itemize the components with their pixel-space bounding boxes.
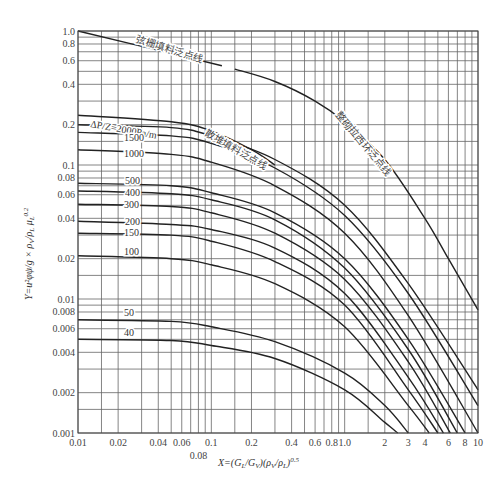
y-tick-label: 0.004 xyxy=(53,347,76,358)
x-tick-label: 0.2 xyxy=(245,437,258,448)
y-tick-label: 0.008 xyxy=(53,306,76,317)
svg-text:Y=u²φψ/g × ρV/ρL μL0.2: Y=u²φψ/g × ρV/ρL μL0.2 xyxy=(22,207,36,300)
x-tick-label: 0.1 xyxy=(205,437,218,448)
x-tick-label: 0.04 xyxy=(150,437,168,448)
y-tick-label: 0.002 xyxy=(53,387,76,398)
curve-label-500: 500 xyxy=(125,175,140,186)
x-tick-label: 10 xyxy=(473,437,483,448)
x-tick-label: 0.02 xyxy=(109,437,127,448)
y-tick-label: 0.8 xyxy=(63,38,76,49)
curve-label-1500: 1500 xyxy=(124,132,144,143)
x-tick-label: 8 xyxy=(463,437,468,448)
x-tick-label: 4 xyxy=(422,437,427,448)
y-tick-label: 0.01 xyxy=(58,294,76,305)
curve-label-100: 100 xyxy=(124,246,139,257)
y-tick-label: 0.02 xyxy=(58,253,76,264)
x-tick-label: 2 xyxy=(382,437,387,448)
y-tick-label: 0.4 xyxy=(63,79,76,90)
curve-label-150: 150 xyxy=(124,227,139,238)
curve-label-200: 200 xyxy=(125,216,140,227)
curve-label-300: 300 xyxy=(124,199,139,210)
y-tick-label: 0.001 xyxy=(53,428,76,439)
y-tick-label: 0.1 xyxy=(63,160,76,171)
y-axis-title: Y=u²φψ/g × ρV/ρL μL0.2 xyxy=(22,207,36,300)
y-tick-label: 1.0 xyxy=(63,26,76,37)
x-tick-label: 3 xyxy=(406,437,411,448)
x-tick-label: 0.06 xyxy=(173,437,191,448)
y-tick-label: 0.06 xyxy=(58,189,76,200)
x-tick-label: 0.8 xyxy=(325,437,338,448)
curve-label-400: 400 xyxy=(125,187,140,198)
y-tick-label: 0.04 xyxy=(58,213,76,224)
x-tick-label: 1.0 xyxy=(338,437,351,448)
curve-label-40: 40 xyxy=(124,327,134,338)
y-tick-label: 0.006 xyxy=(53,323,76,334)
curve-40 xyxy=(78,339,398,433)
x-tick-label: 0.6 xyxy=(309,437,322,448)
y-tick-label: 0.08 xyxy=(58,172,76,183)
x-tick-label: 0.08 xyxy=(190,450,208,461)
curve-label-50: 50 xyxy=(124,307,134,318)
curve-整砌拉西环泛点线 xyxy=(235,69,478,310)
curve-label-1000: 1000 xyxy=(124,148,144,159)
x-axis-title: X=(GL/GV)(ρV/ρL)0.5 xyxy=(217,456,299,470)
y-tick-label: 0.6 xyxy=(63,55,76,66)
annotations: 弦栅填料泛点线散堆填料泛点线整砌拉西环泛点线ΔP/Z=2000Pa/m15001… xyxy=(90,32,394,338)
y-tick-label: 0.2 xyxy=(63,119,76,130)
ticks: 0.010.020.040.060.10.20.40.60.81.0234681… xyxy=(53,26,484,462)
x-tick-label: 0.4 xyxy=(285,437,298,448)
x-tick-label: 0.01 xyxy=(69,437,87,448)
chart: 0.010.020.040.060.10.20.40.60.81.0234681… xyxy=(0,0,502,493)
x-tick-label: 6 xyxy=(446,437,451,448)
